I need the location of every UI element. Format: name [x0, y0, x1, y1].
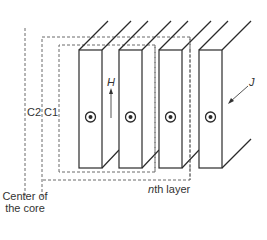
core-center-label: Center of the core — [2, 190, 48, 214]
current-dot-icon — [86, 112, 96, 122]
nth-layer-label: nth layer — [148, 183, 190, 195]
h-field-label: H — [107, 76, 115, 88]
contour-c2-label: C2 — [27, 106, 41, 118]
h-field-arrow-icon — [109, 88, 113, 118]
nth-layer-text: th layer — [154, 183, 190, 195]
current-dot-icon — [166, 112, 176, 122]
layer-4 — [199, 21, 251, 168]
current-density-label: J — [249, 76, 255, 88]
current-dot-icon — [206, 112, 216, 122]
contour-c1-label: C1 — [44, 106, 58, 118]
j-current-arrow-icon — [228, 86, 248, 104]
current-dot-icon — [126, 112, 136, 122]
core-center-label-line1: Center of — [2, 190, 48, 202]
core-center-label-line2: the core — [2, 202, 48, 214]
